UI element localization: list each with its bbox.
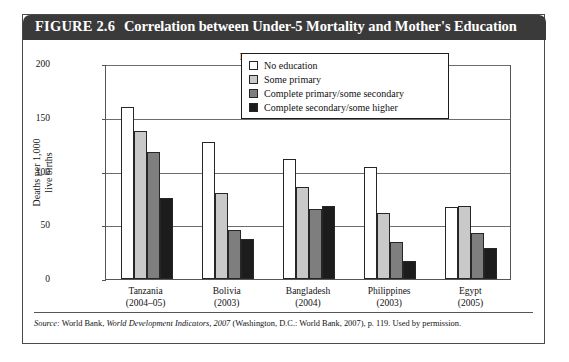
- bar: [445, 207, 458, 279]
- bar: [364, 167, 377, 279]
- legend-swatch-icon: [249, 75, 258, 84]
- legend-item: Complete primary/some secondary: [249, 86, 442, 100]
- source-note: Source: World Bank, World Development In…: [34, 318, 537, 329]
- legend-label: Complete primary/some secondary: [264, 88, 404, 99]
- source-body-1: World Bank,: [60, 319, 107, 328]
- bar: [458, 206, 471, 279]
- bar: [377, 213, 390, 279]
- x-axis-category-label: Tanzania (2004–05): [105, 285, 186, 309]
- bar: [134, 131, 147, 279]
- legend-item: Some primary: [249, 72, 442, 86]
- bar: [202, 142, 215, 279]
- source-italic-title: World Development Indicators, 2007: [106, 319, 230, 328]
- bar: [121, 107, 134, 279]
- bar: [471, 233, 484, 279]
- legend-item: Complete secondary/some higher: [249, 100, 442, 114]
- bar: [283, 159, 296, 279]
- x-axis-category-label: Philippines (2003): [349, 285, 430, 309]
- bar: [228, 230, 241, 279]
- figure-number: FIGURE 2.6: [35, 18, 115, 35]
- y-axis-tick: [102, 65, 106, 66]
- x-axis-category-label: Bangladesh (2004): [267, 285, 348, 309]
- bar: [215, 193, 228, 279]
- chart-legend: No educationSome primaryComplete primary…: [241, 53, 449, 119]
- legend-swatch-icon: [249, 89, 258, 98]
- legend-item: No education: [249, 58, 442, 72]
- bar: [309, 209, 322, 279]
- figure-screenshot: FIGURE 2.6 Correlation between Under-5 M…: [0, 0, 569, 362]
- legend-label: Some primary: [264, 74, 321, 85]
- bar: [403, 261, 416, 279]
- bar: [241, 239, 254, 279]
- bar: [147, 152, 160, 279]
- x-axis-category-label: Egypt (2005): [430, 285, 511, 309]
- y-axis-tick: [102, 173, 106, 174]
- source-divider: [34, 312, 533, 313]
- bar: [484, 248, 497, 279]
- bar: [390, 242, 403, 279]
- bar: [322, 206, 335, 279]
- bar: [160, 198, 173, 279]
- legend-swatch-icon: [249, 103, 258, 112]
- figure-header-bar: FIGURE 2.6 Correlation between Under-5 M…: [23, 15, 546, 40]
- legend-swatch-icon: [249, 61, 258, 70]
- figure-card: FIGURE 2.6 Correlation between Under-5 M…: [22, 14, 545, 344]
- source-body-2: (Washington, D.C.: World Bank, 2007), p.…: [230, 319, 461, 328]
- y-axis-tick: [102, 119, 106, 120]
- bar-group: [121, 66, 173, 279]
- legend-label: Complete secondary/some higher: [264, 102, 398, 113]
- figure-title: Correlation between Under-5 Mortality an…: [124, 18, 517, 35]
- x-axis-category-label: Bolivia (2003): [186, 285, 267, 309]
- y-axis-tick: [102, 280, 106, 281]
- y-axis-tick: [102, 226, 106, 227]
- legend-label: No education: [264, 60, 318, 71]
- bar-group: [445, 66, 497, 279]
- bar: [296, 187, 309, 279]
- source-label: Source:: [34, 319, 60, 328]
- y-axis-title: Deaths per 1,000 live births: [31, 65, 55, 280]
